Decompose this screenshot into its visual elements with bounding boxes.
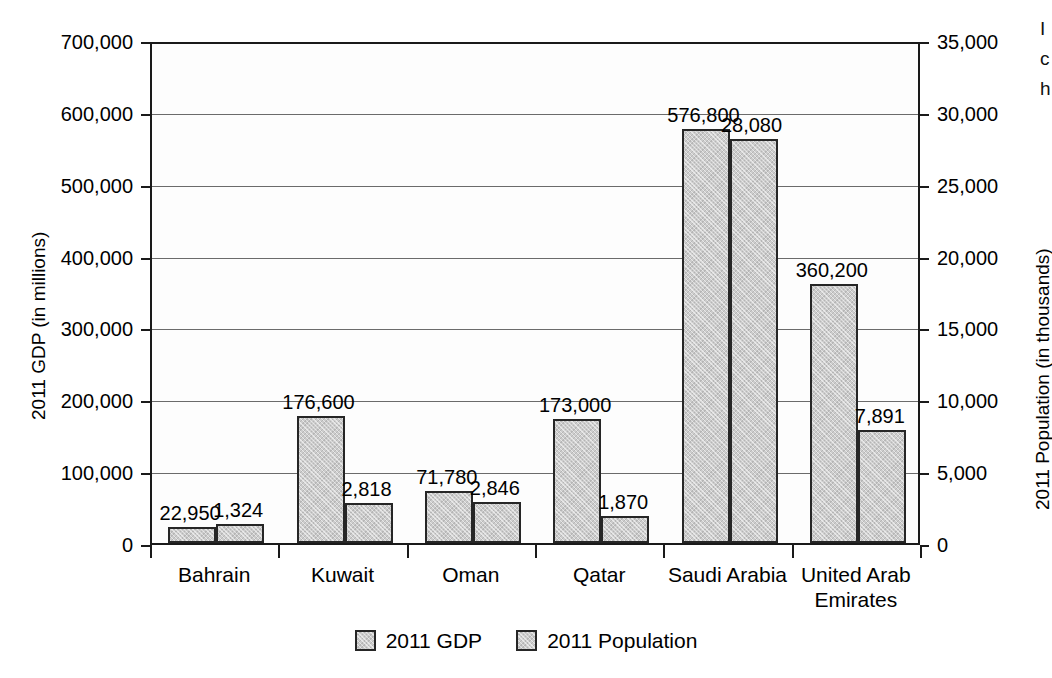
y-axis-tick-right	[920, 329, 929, 331]
y-axis-tick-left	[141, 186, 150, 188]
bar-population	[216, 524, 264, 543]
legend-item: 2011 Population	[516, 630, 697, 651]
y-axis-tick-left	[141, 545, 150, 547]
gridline	[152, 186, 918, 187]
bar-value-label-population: 1,324	[178, 500, 298, 520]
x-axis-tick	[407, 545, 409, 558]
bar-value-label-population: 2,846	[435, 478, 555, 498]
margin-text-line: c	[1040, 44, 1052, 74]
x-axis-tick	[663, 545, 665, 558]
legend-swatch-icon	[355, 630, 376, 651]
bar-gdp	[682, 129, 730, 543]
y-axis-tick-left	[141, 258, 150, 260]
y-axis-label-left: 100,000	[61, 463, 133, 483]
bar-value-label-gdp: 360,200	[772, 260, 892, 280]
x-axis-category-kuwait: Kuwait	[268, 562, 416, 587]
y-axis-label-left: 500,000	[61, 176, 133, 196]
y-axis-tick-left	[141, 401, 150, 403]
y-axis-tick-right	[920, 114, 929, 116]
chart-figure: 2011 GDP (in millions) 2011 Population (…	[0, 0, 1052, 678]
gridline	[152, 42, 918, 44]
y-axis-tick-right	[920, 258, 929, 260]
bar-gdp	[168, 527, 216, 543]
y-axis-label-right: 10,000	[937, 391, 998, 411]
y-axis-tick-left	[141, 42, 150, 44]
bar-population	[858, 430, 906, 543]
bar-gdp	[425, 491, 473, 543]
x-axis-category-united-arab-emirates: United Arab Emirates	[782, 562, 930, 612]
y-axis-label-left: 0	[122, 535, 133, 555]
legend-label: 2011 GDP	[386, 630, 483, 651]
y-axis-label-right: 30,000	[937, 104, 998, 124]
y-axis-label-right: 5,000	[937, 463, 987, 483]
bar-gdp	[553, 419, 601, 543]
bar-value-label-gdp: 176,600	[259, 392, 379, 412]
x-axis-category-oman: Oman	[397, 562, 545, 587]
y-axis-tick-left	[141, 329, 150, 331]
bar-population	[730, 139, 778, 543]
legend-item: 2011 GDP	[355, 630, 483, 651]
y-axis-label-right: 35,000	[937, 32, 998, 52]
x-axis-category-saudi-arabia: Saudi Arabia	[653, 562, 801, 587]
gridline	[152, 473, 918, 474]
y-axis-tick-right	[920, 42, 929, 44]
x-axis-tick	[150, 545, 152, 558]
margin-clipped-text: Ich	[1040, 14, 1052, 104]
y-axis-label-left: 400,000	[61, 248, 133, 268]
x-axis-category-qatar: Qatar	[525, 562, 673, 587]
x-axis-tick	[792, 545, 794, 558]
y-axis-tick-left	[141, 114, 150, 116]
y-axis-tick-right	[920, 186, 929, 188]
bar-population	[473, 502, 521, 543]
bar-value-label-gdp: 173,000	[515, 395, 635, 415]
y-axis-label-left: 200,000	[61, 391, 133, 411]
bar-value-label-population: 7,891	[820, 406, 940, 426]
left-axis-title: 2011 GDP (in millions)	[28, 232, 50, 420]
gridline	[152, 329, 918, 330]
y-axis-label-right: 25,000	[937, 176, 998, 196]
legend-swatch-icon	[516, 630, 537, 651]
y-axis-label-left: 300,000	[61, 319, 133, 339]
y-axis-tick-left	[141, 473, 150, 475]
y-axis-label-right: 15,000	[937, 319, 998, 339]
y-axis-tick-right	[920, 473, 929, 475]
margin-text-line: I	[1040, 14, 1052, 44]
x-axis-tick	[920, 545, 922, 558]
bar-population	[345, 503, 393, 543]
bar-value-label-population: 1,870	[563, 492, 683, 512]
legend-label: 2011 Population	[547, 630, 697, 651]
y-axis-label-right: 0	[937, 535, 948, 555]
x-axis-tick	[278, 545, 280, 558]
right-axis-title: 2011 Population (in thousands)	[1032, 248, 1052, 510]
margin-text-line: h	[1040, 74, 1052, 104]
y-axis-label-left: 700,000	[61, 32, 133, 52]
x-axis-tick	[535, 545, 537, 558]
chart-legend: 2011 GDP2011 Population	[0, 630, 1052, 651]
bar-value-label-population: 28,080	[692, 115, 812, 135]
y-axis-label-left: 600,000	[61, 104, 133, 124]
bar-population	[601, 516, 649, 543]
y-axis-tick-right	[920, 401, 929, 403]
y-axis-label-right: 20,000	[937, 248, 998, 268]
x-axis-category-bahrain: Bahrain	[140, 562, 288, 587]
